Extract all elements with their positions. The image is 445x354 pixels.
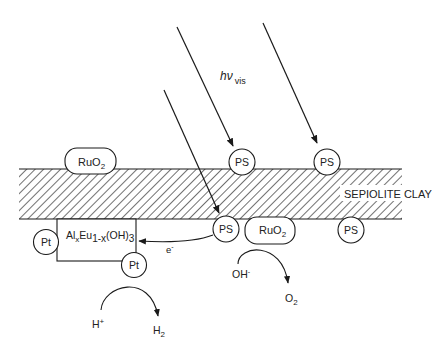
ps-particle-bottom-2: PS [338,217,364,243]
light-ray-1 [177,27,233,146]
svg-text:Pt: Pt [129,259,139,271]
pt-particle-right: Pt [122,253,147,278]
svg-text:PS: PS [344,224,358,236]
light-label: hνvis [220,69,246,86]
electron-transfer-arrow [139,235,213,242]
hydroxide-label: OH- [232,268,251,280]
ruo2-particle-top: RuO2 [65,148,116,174]
svg-text:PS: PS [219,223,233,235]
svg-text:PS: PS [320,156,334,168]
ps-particle-bottom-1: PS [213,216,239,242]
proton-reduction-arrow [101,287,158,316]
catalyst-box: AlxEu1-x(OH)3 [57,219,136,261]
light-ray-2 [263,23,317,143]
clay-label: SEPIOLITE CLAY [344,188,432,200]
pt-particle-left: Pt [34,230,59,255]
proton-label: H+ [92,317,105,330]
svg-text:PS: PS [235,156,249,168]
electron-label: e- [166,243,174,255]
ps-particle-top-1: PS [229,149,255,175]
ps-particle-top-2: PS [314,149,340,175]
ruo2-particle-bottom: RuO2 [245,217,295,244]
photocatalysis-diagram: SEPIOLITE CLAY hνvis RuO2 PS PS AlxEu1-x… [0,0,445,354]
svg-text:Pt: Pt [41,236,51,248]
oxygen-label: O2 [285,292,298,307]
hydrogen-label: H2 [153,324,166,339]
